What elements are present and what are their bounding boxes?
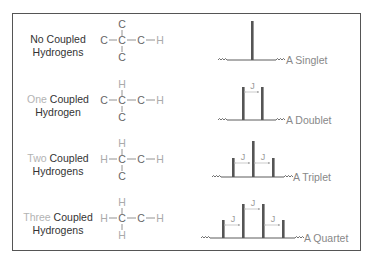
peak bbox=[242, 204, 245, 238]
wavy-left-icon bbox=[218, 59, 227, 61]
molecule-one-coupled: H C C C H C bbox=[100, 78, 164, 123]
atom-right1: C bbox=[137, 94, 145, 106]
peak bbox=[242, 87, 245, 120]
atom-center: C bbox=[118, 153, 126, 165]
atom-left: H bbox=[100, 153, 108, 165]
atom-bottom: C bbox=[118, 111, 126, 123]
spectrum-triplet: J J A Triplet bbox=[212, 141, 331, 183]
atom-top: H bbox=[118, 78, 126, 90]
wavy-right-icon bbox=[284, 176, 293, 178]
peak bbox=[262, 204, 265, 238]
atom-right2: H bbox=[156, 212, 164, 224]
atom-right2: H bbox=[156, 94, 164, 106]
wavy-right-icon bbox=[276, 119, 285, 121]
atom-left: C bbox=[100, 34, 108, 46]
coupling-label: J bbox=[261, 152, 266, 162]
peak bbox=[272, 158, 275, 177]
molecule-no-coupled: C C C C H C bbox=[100, 18, 164, 63]
diagram-svg: C C C C H C H C C C H C H H C C H C bbox=[0, 0, 375, 263]
atom-left: C bbox=[100, 94, 108, 106]
peak bbox=[232, 158, 235, 177]
atom-center: C bbox=[118, 34, 126, 46]
atom-right1: C bbox=[137, 34, 145, 46]
spectrum-quartet: J J J A Quartet bbox=[201, 198, 348, 244]
peak-name: A Doublet bbox=[286, 114, 332, 126]
atom-center: C bbox=[118, 212, 126, 224]
coupling-label: J bbox=[271, 214, 276, 224]
peak bbox=[261, 87, 264, 120]
peak bbox=[251, 21, 254, 60]
wavy-left-icon bbox=[212, 176, 221, 178]
wavy-left-icon bbox=[201, 237, 210, 239]
peak bbox=[252, 141, 255, 177]
coupling-label: J bbox=[251, 198, 256, 208]
wavy-left-icon bbox=[218, 119, 227, 121]
molecule-two-coupled: H H C C H C bbox=[100, 137, 164, 182]
atom-bottom: C bbox=[118, 170, 126, 182]
atom-center: C bbox=[118, 94, 126, 106]
atom-top: C bbox=[118, 18, 126, 30]
atom-top: H bbox=[118, 137, 126, 149]
coupling-label: J bbox=[231, 214, 236, 224]
atom-bottom: C bbox=[118, 51, 126, 63]
wavy-right-icon bbox=[295, 237, 304, 239]
wavy-right-icon bbox=[276, 59, 285, 61]
peak bbox=[282, 220, 285, 238]
atom-right1: C bbox=[137, 212, 145, 224]
coupling-label: J bbox=[241, 152, 246, 162]
coupling-label: J bbox=[250, 81, 255, 91]
atom-right2: H bbox=[156, 34, 164, 46]
spectrum-singlet: A Singlet bbox=[218, 21, 328, 66]
atom-left: H bbox=[100, 212, 108, 224]
peak-name: A Triplet bbox=[293, 171, 331, 183]
atom-bottom: H bbox=[118, 229, 126, 241]
peak-name: A Singlet bbox=[286, 54, 328, 66]
atom-right2: H bbox=[156, 153, 164, 165]
peak bbox=[222, 220, 225, 238]
peak-name: A Quartet bbox=[304, 232, 348, 244]
molecule-three-coupled: H H C C H H bbox=[100, 196, 164, 241]
atom-top: H bbox=[118, 196, 126, 208]
spectrum-doublet: J A Doublet bbox=[218, 81, 332, 126]
atom-right1: C bbox=[137, 153, 145, 165]
